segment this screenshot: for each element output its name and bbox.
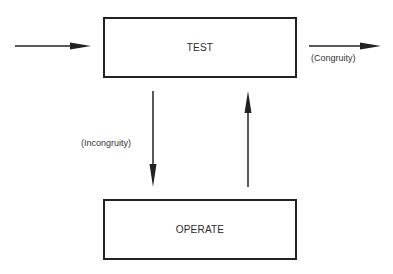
test-label: TEST (187, 42, 213, 53)
incongruity-arrow (150, 91, 157, 187)
congruity-arrow (309, 43, 381, 50)
input-arrow (15, 43, 91, 50)
feedback-arrow (245, 91, 252, 187)
congruity-label: (Congruity) (311, 53, 356, 63)
test-box: TEST (103, 17, 297, 78)
operate-label: OPERATE (176, 224, 224, 235)
operate-box: OPERATE (103, 199, 297, 260)
incongruity-label: (Incongruity) (81, 138, 131, 148)
